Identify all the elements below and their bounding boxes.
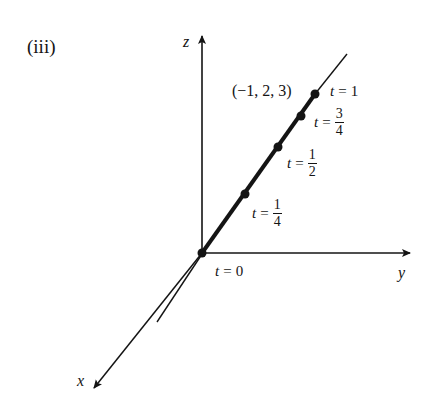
panel-label: (iii)	[27, 37, 56, 56]
t12-var: t	[287, 156, 291, 171]
t-three-quarters-label: t = 3 4	[314, 107, 344, 138]
point-t-quarter	[241, 190, 250, 199]
t0-value: 0	[236, 264, 244, 279]
3d-line-diagram	[0, 0, 424, 404]
t1-label: t = 1	[330, 84, 358, 99]
x-axis-label: x	[77, 373, 84, 389]
t1-eq: =	[338, 84, 346, 99]
t12-fraction: 1 2	[308, 148, 317, 179]
t14-denominator: 4	[274, 214, 281, 229]
point-t-half	[274, 143, 283, 152]
t0-eq: =	[223, 264, 231, 279]
t34-denominator: 4	[336, 123, 343, 138]
t34-eq: =	[322, 115, 330, 130]
t12-denominator: 2	[309, 164, 316, 179]
t34-fraction: 3 4	[335, 107, 344, 138]
point-t1	[311, 90, 320, 99]
t0-var: t	[215, 264, 219, 279]
line-extension-lower	[157, 248, 206, 322]
y-axis-label: y	[398, 265, 405, 281]
t1-value: 1	[351, 84, 359, 99]
t12-numerator: 1	[308, 148, 317, 164]
t14-eq: =	[260, 206, 268, 221]
t1-var: t	[330, 84, 334, 99]
t-quarter-label: t = 1 4	[252, 198, 282, 229]
point-coordinates-label: (−1, 2, 3)	[232, 83, 292, 99]
point-t-three-quarters	[297, 112, 306, 121]
t12-eq: =	[295, 156, 303, 171]
t14-fraction: 1 4	[273, 198, 282, 229]
t0-label: t = 0	[215, 264, 243, 279]
t34-var: t	[314, 115, 318, 130]
t-half-label: t = 1 2	[287, 148, 317, 179]
point-t0	[198, 249, 207, 258]
t14-numerator: 1	[273, 198, 282, 214]
z-axis-label: z	[183, 34, 189, 50]
t34-numerator: 3	[335, 107, 344, 123]
t14-var: t	[252, 206, 256, 221]
x-axis	[94, 253, 202, 388]
